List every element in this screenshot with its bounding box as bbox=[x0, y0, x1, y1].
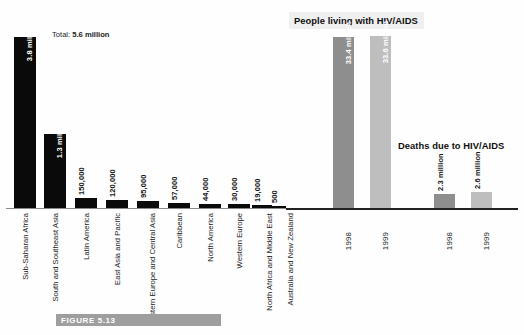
figure-page: Total: 5.6 million 3.8 million 1.3 milli… bbox=[0, 0, 524, 335]
left-axis-line bbox=[6, 208, 286, 210]
category-label: Western Europe bbox=[235, 213, 245, 333]
bar-value-label: 120,000 bbox=[108, 169, 117, 197]
bar-value-label: 44,000 bbox=[201, 177, 210, 201]
bar[interactable]: 1.3 million bbox=[44, 134, 66, 208]
right-bars-area: 33.4 million 33.6 million 2.3 million 2.… bbox=[286, 0, 524, 208]
bar-value-label: 2.6 million bbox=[473, 151, 482, 189]
bar-value-label: 95,000 bbox=[139, 174, 148, 198]
bar-column[interactable]: 2.6 million bbox=[471, 192, 492, 208]
year-label: 1998 bbox=[445, 232, 454, 272]
left-bars-area: 3.8 million 1.3 million 150,000 120,000 bbox=[0, 0, 286, 208]
bar-value-label: 57,000 bbox=[170, 176, 179, 200]
bar-column[interactable]: 2.3 million bbox=[434, 194, 455, 208]
bar-value-label: 500 bbox=[270, 190, 279, 203]
bar-column[interactable]: 33.4 million bbox=[333, 37, 354, 208]
bar-column[interactable]: 3.8 million bbox=[14, 37, 36, 208]
bar[interactable]: 33.4 million bbox=[333, 37, 354, 208]
bar[interactable]: 2.6 million bbox=[471, 192, 492, 208]
category-label: North Africa and Middle East bbox=[265, 213, 275, 333]
right-axis-line bbox=[286, 208, 518, 210]
year-label: 1999 bbox=[482, 232, 491, 272]
category-label: Sub-Saharan Africa bbox=[21, 213, 31, 333]
bar[interactable]: 150,000 bbox=[75, 198, 97, 208]
hiv-aids-summary-chart: People living with HIV/AIDS Deaths due t… bbox=[286, 0, 524, 335]
bar-value-label: 2.3 million bbox=[436, 153, 445, 191]
new-infections-chart: Total: 5.6 million 3.8 million 1.3 milli… bbox=[0, 0, 286, 335]
figure-caption-band: FIGURE 5.13 bbox=[56, 314, 221, 326]
bar-column[interactable]: 150,000 bbox=[75, 198, 97, 208]
bar-value-label: 3.8 million bbox=[25, 23, 34, 61]
bar-value-label: 19,000 bbox=[253, 178, 262, 202]
bar-value-label: 1.3 million bbox=[55, 120, 64, 158]
bar-value-label: 150,000 bbox=[77, 167, 86, 195]
bar[interactable]: 33.6 million bbox=[370, 36, 391, 208]
bar[interactable]: 3.8 million bbox=[14, 37, 36, 208]
bar-column[interactable]: 1.3 million bbox=[44, 134, 66, 208]
bar-value-label: 33.6 million bbox=[381, 21, 390, 64]
year-label: 1998 bbox=[344, 232, 353, 272]
bar[interactable]: 2.3 million bbox=[434, 194, 455, 208]
year-label: 1999 bbox=[381, 232, 390, 272]
bar-column[interactable]: 33.6 million bbox=[370, 36, 391, 208]
bar-value-label: 30,000 bbox=[230, 177, 239, 201]
bar-value-label: 33.4 million bbox=[344, 22, 353, 65]
figure-caption-label: FIGURE 5.13 bbox=[56, 316, 116, 325]
